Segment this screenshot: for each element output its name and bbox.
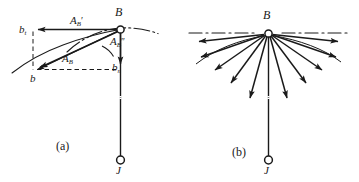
envelope-arc-right [272,36,341,63]
label-component-bt-sub: t [25,29,27,36]
label-point-B-panel-a: B [115,6,122,18]
label-vector-resultant: AB [62,53,73,65]
joint-node-B [117,26,124,33]
label-joint-J-panel-a: J [116,165,121,176]
label-vector-resultant-symbol: A [62,52,69,64]
caption-panel-b: (b) [232,146,246,158]
label-vector-tangential-prime: ′ [81,15,83,26]
label-vector-normal-symbol: A [110,35,117,47]
label-component-bn-sub: n [118,67,121,74]
fan-vector-3 [215,36,265,71]
label-vector-normal: AB″ [110,36,125,48]
label-component-bn: bn [112,62,121,74]
caption-panel-a: (a) [56,140,69,152]
joint-node-J-panel-b [265,156,273,164]
figure-canvas [0,0,359,182]
label-vector-normal-prime: ″ [121,36,125,47]
joint-node-B-panel-b [265,30,272,37]
label-vector-tangential: AB′ [70,15,83,27]
label-component-bt: bt [19,24,26,36]
label-component-b: b [30,73,36,84]
panel-b-graphics [189,30,348,164]
label-joint-J-panel-b: J [264,165,269,176]
acceleration-diagram-figure: B AB′ AB″ AB bt bn b J (a) B J (b) [0,0,359,182]
panel-a-graphics [12,26,158,164]
joint-node-J [117,156,125,164]
label-vector-tangential-symbol: A [70,14,77,26]
label-vector-resultant-sub: B [69,58,73,65]
label-point-B-panel-b: B [263,9,270,21]
